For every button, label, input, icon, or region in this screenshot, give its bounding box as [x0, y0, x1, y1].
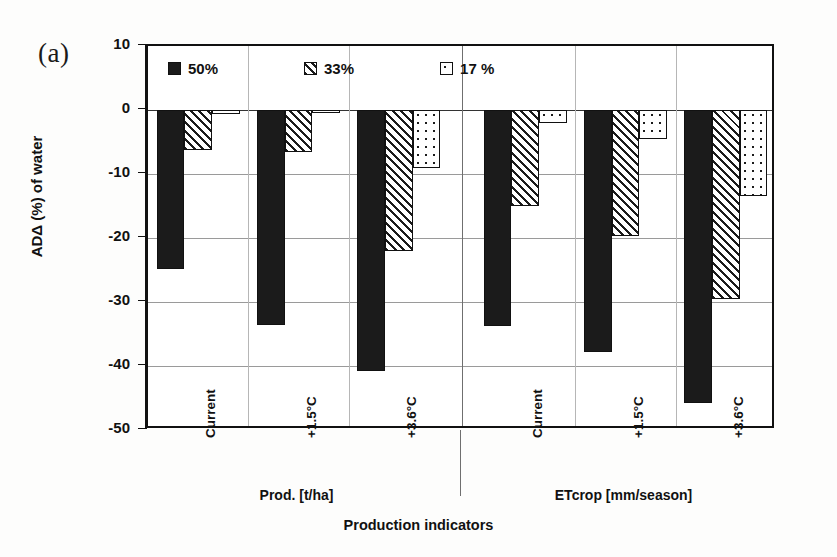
bar — [712, 110, 740, 299]
y-axis-tick-label: -10 — [84, 163, 130, 180]
gridline-vertical — [575, 46, 576, 426]
legend-entry: 17 % — [440, 60, 494, 77]
y-axis-tick-label: 10 — [84, 35, 130, 52]
y-axis-tick — [138, 172, 147, 173]
bar — [285, 110, 313, 152]
x-category-label: Current — [203, 389, 218, 438]
y-axis-tick-label: 0 — [84, 99, 130, 116]
x-lower-divider — [460, 430, 461, 496]
panel-label: (a) — [38, 38, 69, 69]
bar — [312, 110, 340, 113]
panel-divider — [462, 46, 463, 426]
gridline-vertical — [349, 46, 350, 426]
x-category-label: +1.5°C — [631, 396, 646, 438]
y-axis-tick-label: -50 — [84, 419, 130, 436]
x-category-label: Current — [530, 389, 545, 438]
y-axis-tick — [138, 44, 147, 45]
bar — [539, 110, 567, 123]
legend-swatch-hatch — [304, 62, 317, 75]
legend-label: 50% — [188, 60, 218, 77]
y-axis-tick-label: -30 — [84, 291, 130, 308]
y-axis-tick — [138, 428, 147, 429]
x-category-label: +1.5°C — [304, 396, 319, 438]
bar — [257, 110, 285, 325]
y-axis-tick-label: -20 — [84, 227, 130, 244]
legend-swatch-solid — [168, 62, 181, 75]
legend-label: 17 % — [460, 60, 494, 77]
legend-label: 33% — [324, 60, 354, 77]
gridline-horizontal — [148, 302, 772, 303]
bar — [357, 110, 385, 371]
x-group-label: Prod. [t/ha] — [187, 487, 407, 503]
y-axis-title: ADΔ (%) of water — [28, 117, 45, 277]
x-group-label: ETcrop [mm/season] — [514, 487, 734, 503]
y-axis-tick — [138, 364, 147, 365]
gridline-horizontal — [148, 366, 772, 367]
bar — [184, 110, 212, 150]
gridline-vertical — [676, 46, 677, 426]
bar — [413, 110, 441, 168]
y-axis-tick-label: -40 — [84, 355, 130, 372]
bar — [612, 110, 640, 236]
y-axis-tick-labels: 100-10-20-30-40-50 — [84, 0, 130, 557]
y-axis-tick — [138, 108, 147, 109]
y-axis-tick — [138, 300, 147, 301]
y-axis-tick — [138, 236, 147, 237]
gridline-horizontal — [148, 238, 772, 239]
gridline-vertical — [248, 46, 249, 426]
bar — [639, 110, 667, 139]
gridline-horizontal — [148, 110, 772, 111]
x-category-label: +3.6°C — [404, 396, 419, 438]
bar — [511, 110, 539, 206]
bar — [484, 110, 512, 326]
legend-entry: 33% — [304, 60, 354, 77]
bar — [212, 110, 240, 114]
bar — [385, 110, 413, 251]
legend-swatch-dots — [440, 62, 453, 75]
bar — [740, 110, 768, 196]
legend: 50%33%17 % — [168, 60, 494, 77]
x-axis-title: Production indicators — [0, 517, 837, 533]
bar — [157, 110, 185, 269]
legend-entry: 50% — [168, 60, 218, 77]
bar — [684, 110, 712, 403]
chart-page: (a) 100-10-20-30-40-50 ADΔ (%) of water … — [0, 0, 837, 557]
gridline-horizontal — [148, 174, 772, 175]
x-category-label: +3.6°C — [731, 396, 746, 438]
plot-area — [146, 44, 774, 428]
bar — [584, 110, 612, 352]
